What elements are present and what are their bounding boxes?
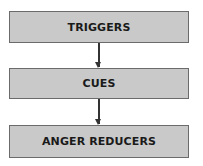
node-triggers: TRIGGERS bbox=[9, 11, 189, 43]
arrow-down-icon bbox=[98, 43, 100, 67]
arrow-down-icon bbox=[98, 99, 100, 124]
node-label: TRIGGERS bbox=[68, 21, 131, 34]
node-anger-reducers: ANGER REDUCERS bbox=[9, 125, 189, 158]
node-label: CUES bbox=[83, 77, 116, 90]
node-label: ANGER REDUCERS bbox=[42, 135, 156, 148]
node-cues: CUES bbox=[9, 68, 189, 99]
